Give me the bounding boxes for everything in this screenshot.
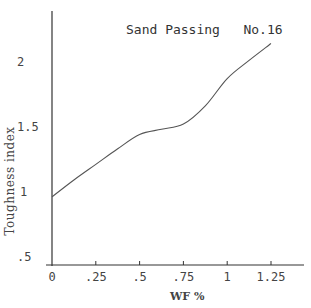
x-tick-label: .75 — [173, 271, 195, 283]
x-tick-label: .25 — [85, 271, 107, 283]
y-tick-label: 1.5 — [17, 121, 39, 133]
x-axis-label: WF % — [170, 290, 204, 303]
chart-plot-area — [0, 0, 311, 308]
x-tick-label: 0 — [48, 271, 55, 283]
x-tick-label: .5 — [132, 271, 146, 283]
x-tick-label: 1 — [224, 271, 231, 283]
data-line — [52, 44, 271, 197]
y-tick-label: 2 — [17, 56, 24, 68]
chart-title: Sand Passing No.16 — [126, 22, 283, 37]
y-tick-label: 1 — [20, 186, 27, 198]
x-tick-label: 1.25 — [257, 271, 286, 283]
y-axis-label: Toughness index — [3, 126, 17, 235]
y-tick-label: .5 — [17, 251, 31, 263]
